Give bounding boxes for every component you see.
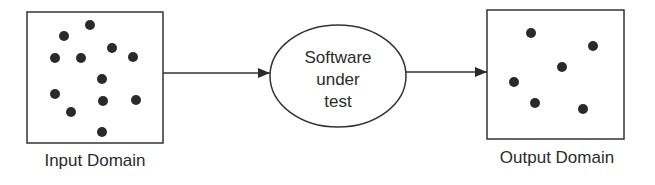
input-domain-dot bbox=[76, 53, 86, 63]
output-domain-dot bbox=[588, 41, 598, 51]
input-domain: Input Domain bbox=[27, 12, 163, 170]
input-domain-dot bbox=[66, 107, 76, 117]
diagram-canvas: Input Domain Software under test Output … bbox=[0, 0, 655, 185]
output-domain-dots bbox=[509, 28, 598, 114]
output-domain-dot bbox=[509, 77, 519, 87]
input-domain-dot bbox=[97, 74, 107, 84]
output-domain-dot bbox=[526, 28, 536, 38]
input-domain-dot bbox=[50, 89, 60, 99]
output-domain: Output Domain bbox=[487, 10, 624, 167]
input-domain-dot bbox=[128, 52, 138, 62]
input-domain-dot bbox=[131, 95, 141, 105]
input-domain-dot bbox=[97, 127, 107, 137]
output-domain-dot bbox=[530, 98, 540, 108]
process-label-line-3: test bbox=[324, 92, 352, 111]
input-domain-dot bbox=[85, 20, 95, 30]
process-label-line-2: under bbox=[316, 70, 360, 89]
output-domain-label: Output Domain bbox=[500, 148, 614, 167]
output-domain-dot bbox=[578, 104, 588, 114]
output-domain-dot bbox=[557, 62, 567, 72]
output-domain-box bbox=[487, 10, 624, 139]
input-domain-dots bbox=[50, 20, 141, 137]
input-domain-dot bbox=[50, 53, 60, 63]
process-label-line-1: Software bbox=[304, 48, 371, 67]
input-domain-dot bbox=[59, 31, 69, 41]
software-under-test: Software under test bbox=[270, 25, 406, 127]
input-domain-box bbox=[27, 12, 163, 143]
input-domain-dot bbox=[98, 96, 108, 106]
input-domain-dot bbox=[107, 43, 117, 53]
input-domain-label: Input Domain bbox=[44, 151, 145, 170]
